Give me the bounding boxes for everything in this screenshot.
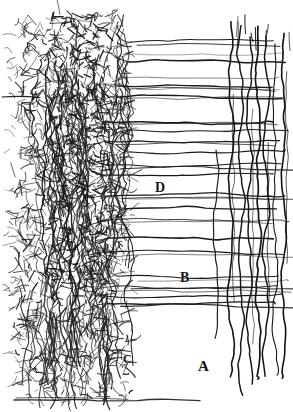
figure-label-d: D <box>155 181 165 195</box>
figure-label-c: C <box>123 353 132 365</box>
histology-drawing-canvas <box>0 0 293 412</box>
figure-label-a: A <box>198 359 209 374</box>
histology-figure: A B C D <box>0 0 293 412</box>
figure-label-b: B <box>180 271 190 285</box>
